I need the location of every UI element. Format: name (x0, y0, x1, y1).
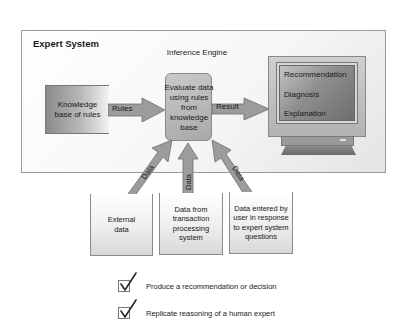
checkmark-icon (120, 272, 138, 292)
goal-text: Replicate reasoning of a human expert (146, 309, 275, 318)
data-arrow-left-icon: Data (120, 138, 180, 198)
data-arrow-right-icon: Data (205, 138, 260, 198)
data-arrow-center-icon: Data (178, 141, 200, 196)
goal-text: Produce a recommendation or decision (146, 282, 277, 291)
inference-engine-title: Inference Engine (162, 48, 232, 58)
screen-item-explanation: Explanation (284, 109, 326, 118)
svg-text:Data: Data (184, 173, 193, 190)
source-user-entered-data: Data entered by user in response to expe… (229, 192, 293, 254)
checkmark-icon (120, 299, 138, 319)
knowledge-base-label: Knowledge base of rules (48, 100, 107, 120)
screen-item-recommendation: Recommendation (284, 70, 347, 79)
container-title: Expert System (33, 38, 99, 49)
inference-engine-description: Evaluate data using rules from knowledge… (163, 83, 215, 133)
goal-item: Replicate reasoning of a human expert (118, 307, 275, 319)
monitor-stand (281, 146, 356, 155)
checkbox (118, 280, 130, 292)
knowledge-base-box: Knowledge base of rules (45, 85, 109, 134)
checkbox (118, 307, 130, 319)
monitor-base (281, 136, 354, 146)
source-transaction-processing: Data from transaction processing system (159, 193, 223, 255)
rules-arrow-label: Rules (112, 104, 132, 113)
goal-item: Produce a recommendation or decision (118, 280, 277, 292)
result-arrow-label: Result (216, 102, 239, 111)
source-external-data: External data (90, 194, 153, 256)
screen-item-diagnosis: Diagnosis (284, 90, 319, 99)
monitor-led (340, 139, 346, 141)
